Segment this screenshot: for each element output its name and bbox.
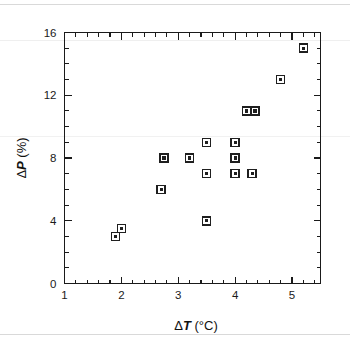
x-tick-label: 1 bbox=[61, 289, 67, 301]
y-tick-label: 16 bbox=[44, 27, 57, 39]
data-point bbox=[231, 154, 239, 162]
data-point-center-dot bbox=[205, 219, 208, 222]
data-point bbox=[203, 217, 211, 225]
figure-canvas: 12345 0481216 ΔT (°C) ΔP (%) bbox=[0, 0, 350, 349]
x-tick-label: 5 bbox=[289, 289, 295, 301]
data-point bbox=[299, 44, 307, 52]
data-point-center-dot bbox=[302, 47, 305, 50]
data-point bbox=[231, 138, 239, 146]
data-point-center-dot bbox=[205, 141, 208, 144]
y-axis-title: ΔP (%) bbox=[14, 137, 29, 178]
data-point-center-dot bbox=[205, 172, 208, 175]
data-point bbox=[203, 138, 211, 146]
data-point-center-dot bbox=[120, 227, 123, 230]
data-point-center-dot bbox=[279, 78, 282, 81]
data-point-center-dot bbox=[188, 156, 191, 159]
x-tick-label: 3 bbox=[175, 289, 181, 301]
x-axis-tick-labels: 12345 bbox=[61, 289, 295, 301]
data-point bbox=[277, 76, 285, 84]
y-axis-tick-labels: 0481216 bbox=[44, 27, 57, 290]
data-point-center-dot bbox=[160, 188, 163, 191]
data-point-markers bbox=[112, 44, 308, 240]
data-point-center-dot bbox=[234, 172, 237, 175]
data-point bbox=[248, 170, 256, 178]
data-point-center-dot bbox=[234, 156, 237, 159]
data-point bbox=[117, 225, 125, 233]
data-point bbox=[203, 170, 211, 178]
x-axis-title: ΔT (°C) bbox=[174, 318, 218, 333]
data-point bbox=[186, 154, 194, 162]
data-point-center-dot bbox=[251, 172, 254, 175]
x-tick-label: 2 bbox=[118, 289, 124, 301]
y-tick-label: 0 bbox=[50, 278, 56, 290]
scatter-plot: 12345 0481216 ΔT (°C) ΔP (%) bbox=[0, 0, 350, 349]
data-point-center-dot bbox=[234, 141, 237, 144]
data-point bbox=[157, 185, 165, 193]
data-point bbox=[231, 170, 239, 178]
y-tick-label: 4 bbox=[50, 215, 57, 227]
data-point-center-dot bbox=[114, 235, 117, 238]
data-point bbox=[112, 232, 120, 240]
y-tick-label: 8 bbox=[50, 152, 56, 164]
data-point bbox=[251, 107, 259, 115]
data-point-center-dot bbox=[245, 109, 248, 112]
x-tick-label: 4 bbox=[232, 289, 239, 301]
data-point-center-dot bbox=[162, 156, 165, 159]
data-point-center-dot bbox=[253, 109, 256, 112]
data-point bbox=[243, 107, 251, 115]
y-tick-label: 12 bbox=[44, 89, 57, 101]
data-point bbox=[160, 154, 168, 162]
